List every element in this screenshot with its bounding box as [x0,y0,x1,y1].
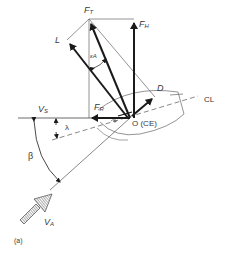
apparent-wind-line [50,118,130,190]
beta-arc [34,121,60,182]
epsilon-arc [94,59,106,68]
beta-label: β [28,152,33,161]
construction-lines [67,19,155,118]
vs-label: VS [38,105,48,114]
l-label: L [55,36,60,45]
lambda-arrow-bottom [56,132,57,138]
cl-label: CL [204,96,214,104]
sail-force-diagram: FT FH L εA D FR VS λ O (CE) CL β VA (a) [0,0,230,253]
figure-caption: (a) [14,237,23,244]
force-vectors [70,23,152,118]
diagram-graphics [0,0,230,253]
epsilon-label: εA [90,53,97,59]
lambda-label: λ [65,124,69,132]
ft-label: FT [84,6,93,15]
fh-label: FH [139,20,149,29]
va-label: VA [44,218,54,227]
d-label: D [157,84,164,93]
origin-label: O (CE) [132,120,157,128]
fr-label: FR [94,103,104,112]
